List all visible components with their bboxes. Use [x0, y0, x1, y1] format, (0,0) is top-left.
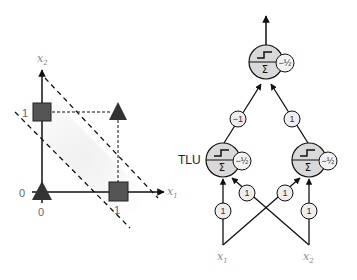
- hidden-left-bias: −½: [236, 156, 249, 166]
- point-square-1-0: [109, 182, 128, 201]
- output-bias: −½: [279, 58, 292, 68]
- svg-text:1: 1: [282, 188, 287, 198]
- x-tick-label-1: 1: [114, 204, 120, 216]
- point-triangle-0-0: [32, 181, 52, 200]
- tlu-network: Σ −½ Σ −½ TLU Σ −½ −1: [178, 16, 337, 265]
- x-tick-label-0: 0: [38, 206, 44, 218]
- svg-text:1: 1: [289, 114, 294, 124]
- input-x2-label: x2: [303, 250, 314, 265]
- sum-icon: Σ: [219, 162, 225, 173]
- svg-text:1: 1: [244, 188, 249, 198]
- xor-diagram: x2 x1 1 0 0 1 Σ −½: [0, 0, 357, 280]
- svg-text:1: 1: [306, 206, 311, 216]
- sum-icon: Σ: [262, 64, 268, 75]
- xor-plot: x2 x1 1 0 0 1: [14, 52, 178, 228]
- weight-left-to-output: −1: [230, 111, 246, 127]
- tlu-label: TLU: [178, 153, 201, 167]
- point-square-0-1: [33, 103, 51, 121]
- hidden-neuron-left: Σ −½: [206, 143, 251, 177]
- y-axis-label: x2: [37, 52, 48, 67]
- weight-x1-to-left: 1: [215, 203, 231, 219]
- hidden-right-bias: −½: [322, 156, 335, 166]
- svg-text:1: 1: [220, 206, 225, 216]
- weight-x2-to-right: 1: [301, 203, 317, 219]
- sum-icon: Σ: [305, 162, 311, 173]
- output-neuron: Σ −½: [249, 45, 294, 79]
- x-axis-label: x1: [167, 185, 178, 200]
- y-tick-0: 0: [19, 187, 25, 199]
- hidden-neuron-right: Σ −½: [292, 143, 337, 177]
- y-tick-1: 1: [22, 107, 28, 119]
- weight-right-to-output: 1: [284, 111, 300, 127]
- input-x1-label: x1: [217, 250, 228, 265]
- weight-x2-to-left: 1: [239, 185, 255, 201]
- point-triangle-1-1: [109, 102, 127, 120]
- svg-text:−1: −1: [233, 114, 243, 124]
- weight-x1-to-right: 1: [277, 185, 293, 201]
